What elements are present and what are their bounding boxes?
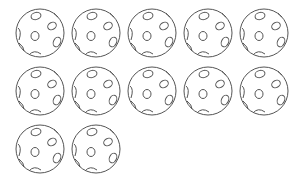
ball-icon <box>70 65 122 117</box>
ball-graphic <box>238 7 290 59</box>
ball-icon <box>14 123 66 175</box>
ball-graphic <box>182 7 234 59</box>
ball-icon <box>182 7 234 59</box>
ball-graphic <box>70 123 122 175</box>
ball-graphic <box>238 65 290 117</box>
ball-icon <box>126 7 178 59</box>
ball-icon <box>14 65 66 117</box>
ball-icon <box>182 65 234 117</box>
ball-icon <box>14 7 66 59</box>
ball-icon <box>70 7 122 59</box>
ball-icon <box>70 123 122 175</box>
ball-graphic <box>14 65 66 117</box>
ball-graphic <box>14 123 66 175</box>
ball-icon <box>126 65 178 117</box>
ball-icon <box>238 65 290 117</box>
ball-graphic <box>182 65 234 117</box>
ball-graphic <box>126 65 178 117</box>
ball-icon <box>238 7 290 59</box>
ball-graphic <box>70 7 122 59</box>
ball-graphic <box>126 7 178 59</box>
ball-graphic <box>14 7 66 59</box>
ball-graphic <box>70 65 122 117</box>
